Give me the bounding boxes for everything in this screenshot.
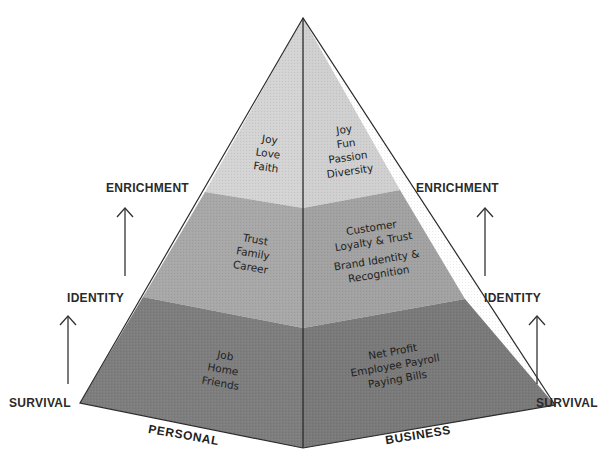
arrow-up-icon [477,208,493,276]
pyramid-diagram: ENRICHMENT IDENTITY SURVIVAL ENRICHMENT … [0,0,610,462]
level-label-survival-right: SURVIVAL [536,396,598,410]
level-label-enrichment-left: ENRICHMENT [106,181,189,195]
arrow-up-icon [117,208,133,276]
level-label-survival-left: SURVIVAL [9,396,71,410]
level-label-identity-left: IDENTITY [67,291,124,305]
level-label-enrichment-right: ENRICHMENT [416,181,499,195]
business-top-values: Joy Fun Passion Diversity [304,117,389,183]
pyramid-graphic [0,0,610,462]
personal-top-values: Joy Love Faith [235,128,300,178]
level-label-identity-right: IDENTITY [484,291,541,305]
arrow-up-icon [60,316,76,384]
